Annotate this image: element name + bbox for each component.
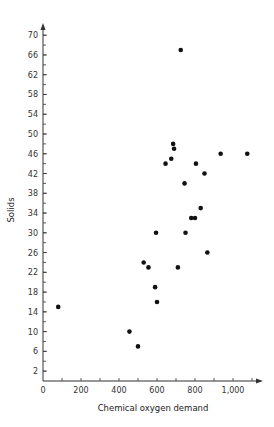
- y-tick-label: 18: [28, 288, 38, 297]
- data-point: [182, 181, 187, 186]
- data-point: [169, 156, 174, 161]
- x-axis: 02004006008001,000: [40, 378, 263, 395]
- data-point: [183, 231, 188, 236]
- y-tick-label: 54: [28, 110, 38, 119]
- x-axis-label: Chemical oxygen demand: [98, 403, 209, 413]
- x-tick-label: 1,000: [222, 386, 245, 395]
- data-point: [146, 265, 151, 270]
- data-point: [155, 300, 160, 305]
- data-point: [176, 265, 181, 270]
- data-point: [178, 48, 183, 53]
- x-tick-label: 200: [73, 386, 88, 395]
- data-point: [56, 305, 61, 310]
- data-point: [127, 329, 132, 334]
- data-point: [141, 260, 146, 265]
- data-point: [202, 171, 207, 176]
- y-tick-label: 38: [28, 189, 38, 198]
- y-tick-label: 70: [28, 31, 38, 40]
- data-point: [153, 285, 158, 290]
- scatter-chart: 2610141822263034384246505458626670 02004…: [0, 0, 274, 427]
- y-tick-label: 10: [28, 328, 38, 337]
- y-axis: 2610141822263034384246505458626670: [28, 23, 47, 381]
- y-axis-label: Solids: [6, 197, 16, 223]
- data-point: [193, 216, 198, 221]
- data-point: [136, 344, 141, 349]
- data-point: [171, 142, 176, 147]
- x-axis-arrow-icon: [256, 379, 263, 384]
- data-point: [205, 250, 210, 255]
- data-point: [245, 151, 250, 156]
- y-tick-label: 30: [28, 229, 38, 238]
- y-tick-label: 46: [28, 150, 38, 159]
- y-tick-label: 58: [28, 90, 38, 99]
- data-point: [154, 231, 159, 236]
- x-tick-label: 800: [187, 386, 202, 395]
- y-tick-label: 62: [28, 71, 38, 80]
- y-tick-label: 50: [28, 130, 38, 139]
- y-axis-arrow-icon: [41, 23, 46, 30]
- x-tick-label: 0: [40, 386, 45, 395]
- y-tick-label: 22: [28, 268, 38, 277]
- data-point: [163, 161, 168, 166]
- y-tick-label: 6: [33, 347, 38, 356]
- y-tick-label: 2: [33, 367, 38, 376]
- data-point: [194, 161, 199, 166]
- y-tick-label: 26: [28, 249, 38, 258]
- data-points: [56, 48, 250, 349]
- y-tick-label: 14: [28, 308, 38, 317]
- x-tick-label: 600: [149, 386, 164, 395]
- x-tick-label: 400: [111, 386, 126, 395]
- data-point: [172, 147, 177, 152]
- y-tick-label: 66: [28, 51, 38, 60]
- y-tick-label: 34: [28, 209, 38, 218]
- data-point: [218, 151, 223, 156]
- y-tick-label: 42: [28, 170, 38, 179]
- data-point: [198, 206, 203, 211]
